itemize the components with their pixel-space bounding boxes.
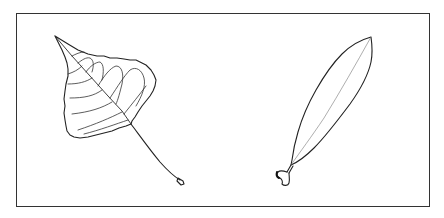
lanceolate-leaf-midrib <box>291 37 371 165</box>
illustration-canvas <box>0 0 444 218</box>
vein <box>124 86 146 114</box>
deltoid-leaf-midrib <box>55 36 131 124</box>
vein <box>78 112 122 130</box>
vein <box>110 68 145 106</box>
vein <box>72 52 84 56</box>
vein <box>70 90 102 98</box>
lanceolate-leaf-petiole <box>287 165 293 173</box>
deltoid-leaf-petiole-tip <box>177 178 184 185</box>
deltoid-leaf-petiole <box>131 124 180 180</box>
vein <box>68 78 92 84</box>
deltoid-leaf-outline <box>55 36 156 138</box>
vein <box>86 62 103 80</box>
vein <box>68 66 82 74</box>
leaves-illustration <box>0 0 444 218</box>
lanceolate-leaf <box>277 37 373 185</box>
vein <box>72 102 112 114</box>
deltoid-leaf <box>55 36 184 185</box>
